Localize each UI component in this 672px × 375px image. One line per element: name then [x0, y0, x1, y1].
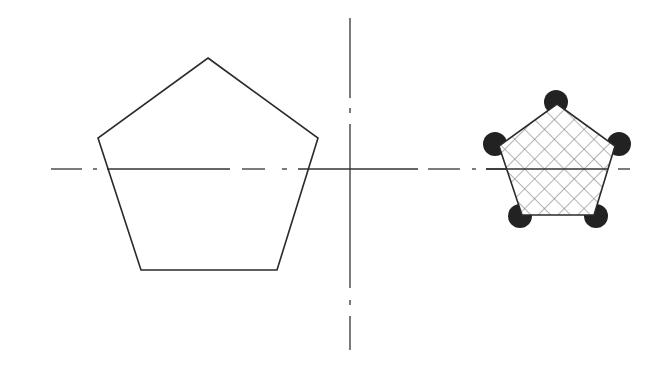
small-hatched-pentagon	[499, 104, 615, 215]
diagram-canvas	[0, 0, 672, 375]
large-pentagon	[98, 58, 318, 270]
